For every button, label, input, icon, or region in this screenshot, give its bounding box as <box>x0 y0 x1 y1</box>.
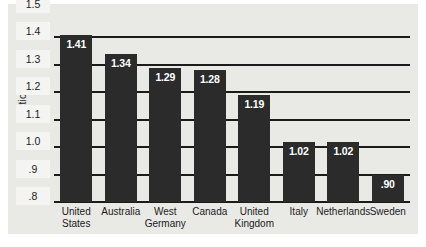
bar-value-label: 1.29 <box>149 71 181 83</box>
plot-area: 1.51.41.31.21.11.0.9.8 1.411.341.291.281… <box>54 10 410 202</box>
bar-value-label: 1.02 <box>283 145 315 157</box>
x-axis-category-label-line2: Kingdom <box>226 218 283 230</box>
x-axis-category-label: Sweden <box>360 206 417 218</box>
bar[interactable]: 1.02 <box>327 142 359 202</box>
y-axis-tick-label: 1.0 <box>16 132 50 150</box>
bar-value-label: .90 <box>372 178 404 190</box>
x-axis-category-label-line1: Italy <box>290 206 308 217</box>
bar-value-label: 1.19 <box>238 98 270 110</box>
bar[interactable]: 1.29 <box>149 68 181 202</box>
x-axis-category-label-line1: United <box>240 206 269 217</box>
x-axis-category-label-line1: Sweden <box>370 206 406 217</box>
x-axis-category-label-line1: West <box>154 206 177 217</box>
y-axis-tick-label: 1.4 <box>16 22 50 40</box>
bar[interactable]: 1.19 <box>238 95 270 202</box>
bar[interactable]: 1.28 <box>194 70 226 202</box>
y-axis-tick-label: 1.3 <box>16 50 50 68</box>
bar[interactable]: 1.02 <box>283 142 315 202</box>
y-axis-tick-label: 1.1 <box>16 105 50 123</box>
chart-screenshot: Ratio 1.51.41.31.21.11.0.9.8 1.411.341.2… <box>0 0 426 247</box>
y-axis-tick-label: 1.5 <box>16 0 50 13</box>
y-axis-tick-label: .9 <box>16 160 50 178</box>
bar[interactable]: .90 <box>372 175 404 202</box>
bar[interactable]: 1.34 <box>105 54 137 202</box>
chart-plate: Ratio 1.51.41.31.21.11.0.9.8 1.411.341.2… <box>8 4 418 234</box>
x-axis-category-label-line1: Canada <box>192 206 227 217</box>
x-axis-category-label-line1: United <box>62 206 91 217</box>
x-axis-category-labels: UnitedStatesAustraliaWestGermanyCanadaUn… <box>54 204 410 232</box>
x-axis-category-label-line2: States <box>48 218 105 230</box>
x-axis-category-label-line1: Australia <box>101 206 140 217</box>
bar-value-label: 1.41 <box>60 38 92 50</box>
x-axis-category-label-line2: Germany <box>137 218 194 230</box>
bar-value-label: 1.28 <box>194 73 226 85</box>
bar[interactable]: 1.41 <box>60 35 92 202</box>
y-axis-tick-label: 1.2 <box>16 77 50 95</box>
y-axis-tick-label: .8 <box>16 187 50 205</box>
bar-value-label: 1.34 <box>105 57 137 69</box>
bar-value-label: 1.02 <box>327 145 359 157</box>
bar-series: 1.411.341.291.281.191.021.02.90 <box>54 10 410 202</box>
